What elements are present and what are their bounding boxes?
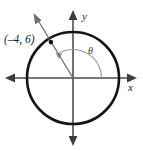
terminal-ray-line [38,20,74,79]
theta-label: θ [88,45,93,56]
y-axis-bottom-arrowhead [69,136,78,146]
point-marker [49,40,54,45]
angle-arc-group [55,49,101,78]
y-axis-top-arrowhead [69,10,78,20]
figure-canvas: y x θ (–4, 6) [0,0,143,151]
terminal-ray-arrowhead [34,13,42,24]
unit-circle-figure: y x θ (–4, 6) [0,0,143,151]
x-axis-left-arrowhead [5,74,15,83]
y-axis-label: y [81,10,87,22]
point-coordinate-label: (–4, 6) [4,33,35,46]
x-axis-label: x [127,81,133,93]
